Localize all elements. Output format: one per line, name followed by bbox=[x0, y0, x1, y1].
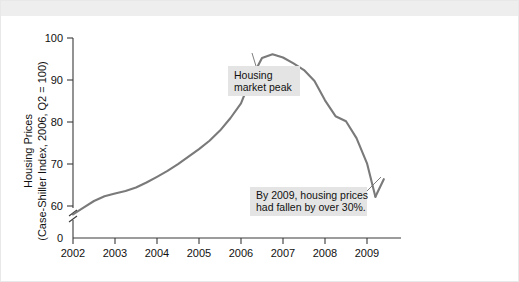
peak-callout-line2: market peak bbox=[234, 81, 293, 93]
y-tick-label-80: 80 bbox=[51, 116, 63, 128]
x-tick-label-2008: 2008 bbox=[313, 247, 337, 259]
x-tick-label-2002: 2002 bbox=[61, 247, 85, 259]
y-tick-label-0: 0 bbox=[57, 232, 63, 244]
chart-figure: 100 90 80 70 60 0 2002 2003 2004 2005 20… bbox=[0, 0, 519, 282]
x-tick-label-2009: 2009 bbox=[355, 247, 379, 259]
y-tick-label-90: 90 bbox=[51, 74, 63, 86]
decline-callout-line2: had fallen by over 30%. bbox=[256, 201, 366, 213]
decline-callout: By 2009, housing prices had fallen by ov… bbox=[250, 177, 381, 216]
y-tick-label-60: 60 bbox=[51, 200, 63, 212]
y-tick-marks bbox=[67, 38, 73, 206]
peak-callout-line1: Housing bbox=[234, 69, 273, 81]
y-tick-label-70: 70 bbox=[51, 158, 63, 170]
y-tick-label-100: 100 bbox=[45, 32, 63, 44]
x-tick-label-2006: 2006 bbox=[229, 247, 253, 259]
y-axis-title-line2: (Case-Shiller Index, 2006, Q2 = 100) bbox=[36, 61, 48, 240]
x-tick-label-2004: 2004 bbox=[145, 247, 169, 259]
housing-prices-line-chart: 100 90 80 70 60 0 2002 2003 2004 2005 20… bbox=[1, 1, 519, 282]
y-axis-title-line1: Housing Prices bbox=[22, 114, 34, 188]
peak-callout: Housing market peak bbox=[228, 53, 300, 96]
x-tick-label-2005: 2005 bbox=[187, 247, 211, 259]
x-tick-label-2003: 2003 bbox=[103, 247, 127, 259]
decline-callout-line1: By 2009, housing prices bbox=[256, 189, 368, 201]
x-tick-marks bbox=[73, 238, 367, 244]
x-tick-label-2007: 2007 bbox=[271, 247, 295, 259]
